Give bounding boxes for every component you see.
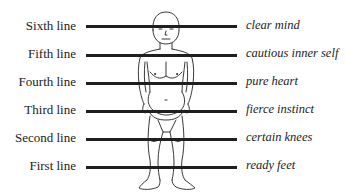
line-quality-second: certain knees xyxy=(246,130,312,144)
line-quality-first: ready feet xyxy=(246,158,295,172)
line-quality-fifth: cautious inner self xyxy=(246,46,338,60)
hexagram-line-sixth xyxy=(86,25,237,28)
hexagram-body-diagram: Sixth line clear mind Fifth line cautiou… xyxy=(0,0,346,195)
hexagram-line-first xyxy=(86,166,237,169)
line-quality-sixth: clear mind xyxy=(246,18,300,32)
line-label-third: Third line xyxy=(0,103,76,117)
line-label-first: First line xyxy=(0,159,76,173)
line-label-fourth: Fourth line xyxy=(0,75,76,89)
line-label-fifth: Fifth line xyxy=(0,47,76,61)
hexagram-line-fifth xyxy=(86,54,237,57)
line-label-second: Second line xyxy=(0,131,76,145)
hexagram-line-fourth xyxy=(86,82,237,85)
line-label-sixth: Sixth line xyxy=(0,19,76,33)
hexagram-line-second xyxy=(86,138,237,141)
line-quality-third: fierce instinct xyxy=(246,102,314,116)
hexagram-line-third xyxy=(86,110,237,113)
line-quality-fourth: pure heart xyxy=(246,74,298,88)
